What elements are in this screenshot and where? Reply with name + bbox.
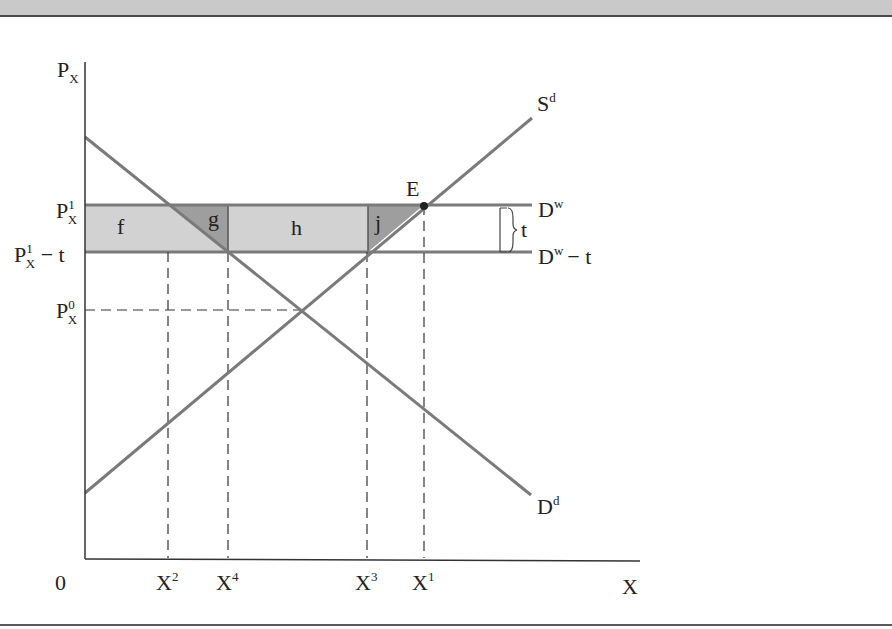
demand-curve xyxy=(85,137,531,495)
world-price-minus-t-label: Dw− t xyxy=(538,243,591,269)
brace-icon xyxy=(500,208,507,252)
area-f-label: f xyxy=(117,214,125,239)
world-price-label: Dw xyxy=(538,196,564,222)
price-label-p0: P0X xyxy=(56,297,78,327)
quantity-label-x4: X4 xyxy=(216,569,239,595)
price-label-p1: P1X xyxy=(56,197,78,227)
quantity-label-x3: X3 xyxy=(355,569,377,595)
area-j-label: j xyxy=(374,210,381,235)
y-axis-label: PX xyxy=(57,57,79,86)
quantity-label-x1: X1 xyxy=(412,569,434,595)
price-label-p1-minus-t: P1X − t xyxy=(14,241,65,271)
equilibrium-point-e xyxy=(420,202,428,210)
export-subsidy-diagram: PX P1X P1X − t P0X f g h j E t Sd Dw Dw−… xyxy=(0,0,892,629)
bottom-rule xyxy=(0,624,892,626)
x-axis xyxy=(85,559,640,561)
quantity-label-x2: X2 xyxy=(156,569,178,595)
x-axis-label: X xyxy=(622,574,638,599)
curly-brace-icon xyxy=(508,208,517,252)
point-e-label: E xyxy=(406,176,419,201)
origin-label: 0 xyxy=(55,570,66,595)
demand-label: Dd xyxy=(537,493,560,519)
area-g-label: g xyxy=(208,206,219,231)
area-h-label: h xyxy=(291,215,302,240)
supply-curve xyxy=(85,118,532,493)
supply-label: Sd xyxy=(537,90,556,116)
brace-t-label: t xyxy=(521,217,527,242)
